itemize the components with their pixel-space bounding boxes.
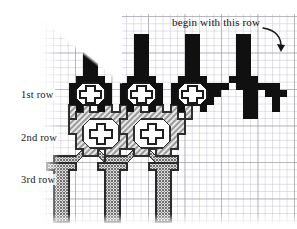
row3-motif-group bbox=[47, 149, 178, 222]
row-label-3rd-row: 3rd row bbox=[20, 174, 56, 185]
row-label-1st-row: 1st row bbox=[20, 89, 55, 100]
row3-stem-right bbox=[149, 156, 178, 222]
row3-stem-middle bbox=[98, 156, 127, 222]
pattern-chart: 1st row 2nd row 3rd row begin with this … bbox=[0, 0, 297, 229]
row2-motif-group bbox=[69, 105, 192, 156]
row1-motif-a bbox=[69, 34, 112, 112]
row-label-2nd-row: 2nd row bbox=[20, 132, 58, 143]
curved-arrow-down-left-icon bbox=[258, 26, 292, 58]
row1-motif-b bbox=[120, 34, 163, 112]
row1-motif-group bbox=[69, 34, 287, 119]
stitch-motif-layer bbox=[0, 0, 297, 229]
row1-motif-c bbox=[171, 34, 214, 112]
row3-stem-left bbox=[47, 156, 76, 222]
begin-row-note: begin with this row bbox=[172, 16, 260, 28]
